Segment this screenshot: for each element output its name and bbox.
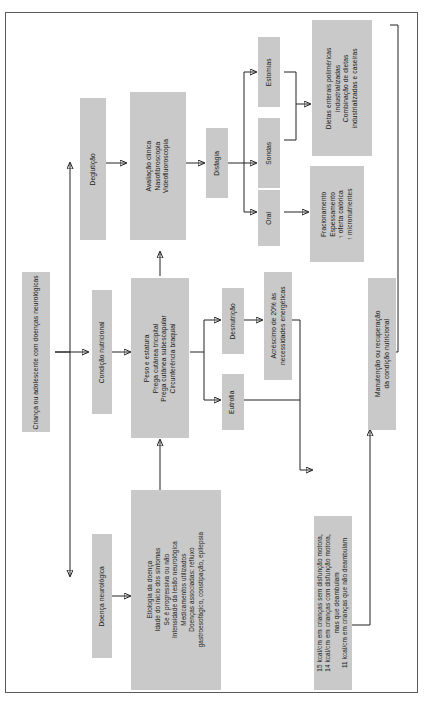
- node-estomias-label: Estomias: [265, 58, 274, 86]
- node-etiologia[interactable]: Etiologia da doença Idade do início dos …: [131, 490, 221, 690]
- node-doenca-neurologica[interactable]: Doença neurológica: [92, 534, 112, 658]
- node-fracionamento[interactable]: Fracionamento Espessamento ↑ oferta caló…: [310, 166, 364, 262]
- node-dietas-enterais[interactable]: Dietas enterais poliméricas industrializ…: [312, 20, 372, 156]
- node-root-label: Criança ou adolescente com doenças neuro…: [32, 275, 41, 429]
- node-eutrofia[interactable]: Eutrofia: [222, 374, 244, 430]
- node-disfagia[interactable]: Disfagia: [206, 128, 228, 198]
- node-avaliacao[interactable]: Avaliação clínica Nasofibroscopia Videof…: [130, 92, 186, 240]
- node-oral-label: Oral: [265, 212, 274, 225]
- node-condicao-nutricional-label: Condição nutricional: [98, 321, 107, 383]
- node-manutencao-recuperacao[interactable]: Manutenção ou recuperação da condição nu…: [368, 278, 396, 430]
- node-deglutição[interactable]: Deglutição: [80, 98, 106, 240]
- node-estomias[interactable]: Estomias: [258, 37, 280, 107]
- node-acrescimo-energetico-label: Acréscimo de 20% às necessidades energét…: [269, 287, 286, 366]
- diagram-canvas: Criança ou adolescente com doenças neuro…: [0, 0, 425, 704]
- node-disfagia-label: Disfagia: [213, 151, 222, 176]
- node-avaliacao-label: Avaliação clínica Nasofibroscopia Videof…: [145, 139, 171, 193]
- node-kcal-recommendations-label: 15 kcal/cm em crianças sem disfunção mot…: [316, 534, 350, 672]
- node-antropometria-label: Peso e estatura Prega cutânea tricipital…: [143, 315, 178, 402]
- node-sondas[interactable]: Sondas: [258, 118, 280, 188]
- node-sondas-label: Sondas: [265, 142, 274, 165]
- node-deglutição-label: Deglutição: [89, 153, 98, 185]
- node-doenca-neurologica-label: Doença neurológica: [98, 566, 107, 626]
- node-dietas-enterais-label: Dietas enterais poliméricas industrializ…: [325, 47, 360, 129]
- node-manutencao-recuperacao-label: Manutenção ou recuperação da condição nu…: [373, 311, 390, 397]
- node-fracionamento-label: Fracionamento Espessamento ↑ oferta caló…: [320, 188, 355, 240]
- node-etiologia-label: Etiologia da doença Idade do início dos …: [146, 532, 205, 647]
- node-eutrofia-label: Eutrofia: [229, 390, 238, 414]
- node-kcal-recommendations[interactable]: 15 kcal/cm em crianças sem disfunção mot…: [314, 516, 352, 690]
- node-root[interactable]: Criança ou adolescente com doenças neuro…: [22, 272, 50, 432]
- node-desnutricao[interactable]: Desnutrição: [222, 288, 244, 354]
- node-acrescimo-energetico[interactable]: Acréscimo de 20% às necessidades energét…: [264, 272, 292, 380]
- node-desnutricao-label: Desnutrição: [229, 303, 238, 339]
- node-antropometria[interactable]: Peso e estatura Prega cutânea tricipital…: [131, 278, 189, 438]
- node-oral[interactable]: Oral: [258, 190, 280, 246]
- node-condicao-nutricional[interactable]: Condição nutricional: [92, 290, 112, 414]
